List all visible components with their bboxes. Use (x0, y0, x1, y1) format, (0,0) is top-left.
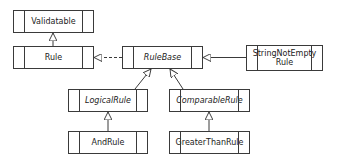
class-label: GreaterThanRule (164, 138, 256, 147)
uml-diagram: Validatable Rule RuleBase StringNotEmpty… (0, 0, 355, 165)
class-validatable: Validatable (13, 10, 94, 33)
class-comparablerule: ComparableRule (169, 89, 250, 112)
class-label: LogicalRule (73, 96, 143, 105)
class-rulebase: RuleBase (122, 46, 203, 69)
class-stringnotemptyrule: StringNotEmpty Rule (246, 45, 323, 71)
class-label: Validatable (19, 17, 87, 26)
class-label: RuleBase (132, 53, 193, 62)
edge-comparable-rulebase (170, 69, 183, 89)
edge-logical-rulebase (135, 69, 151, 89)
class-greaterthanrule: GreaterThanRule (169, 131, 250, 154)
class-label: Rule (33, 53, 74, 62)
class-rule: Rule (13, 46, 94, 69)
class-label: StringNotEmpty Rule (241, 49, 329, 67)
class-andrule: AndRule (68, 131, 148, 154)
class-logicalrule: LogicalRule (68, 89, 148, 112)
class-label: ComparableRule (164, 96, 254, 105)
class-label: AndRule (79, 138, 136, 147)
